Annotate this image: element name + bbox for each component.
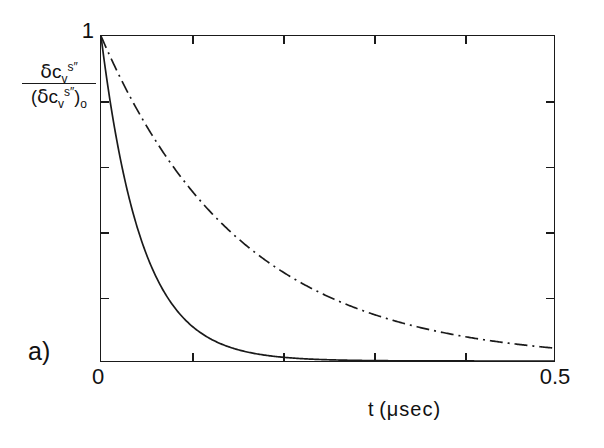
delta-symbol-numerator: δ [40,60,52,82]
c-variable-denominator: c [49,86,59,107]
panel-label: a) [28,337,50,366]
y-axis-title-numerator: δcvs″ [22,62,96,84]
x-axis-title-variable: t [368,398,374,420]
curve-slow-decay [101,36,554,348]
superscript-s-denominator: s″ [64,85,74,99]
x-axis-title: t (μsec) [368,398,441,421]
x-tick-label-0: 0 [85,366,111,388]
y-tick-label-1: 1 [70,20,94,42]
curve-fast-decay [101,36,554,361]
c-variable-numerator: c [52,61,62,82]
superscript-s-numerator: s″ [67,60,77,74]
y-axis-title-denominator: (δcvs″)o [22,84,96,106]
x-axis-title-units: (μsec) [379,398,441,420]
curves-svg [101,36,554,361]
delta-symbol-denominator: δ [37,85,49,107]
y-axis-title: δcvs″ (δcvs″)o [22,62,96,106]
x-tick-label-0point5: 0.5 [524,366,586,388]
outer-subscript-o: o [80,97,87,111]
figure-panel-a: a) δcvs″ (δcvs″)o 1 0 0.5 t (μsec) [0,0,604,448]
plot-area [100,35,555,362]
